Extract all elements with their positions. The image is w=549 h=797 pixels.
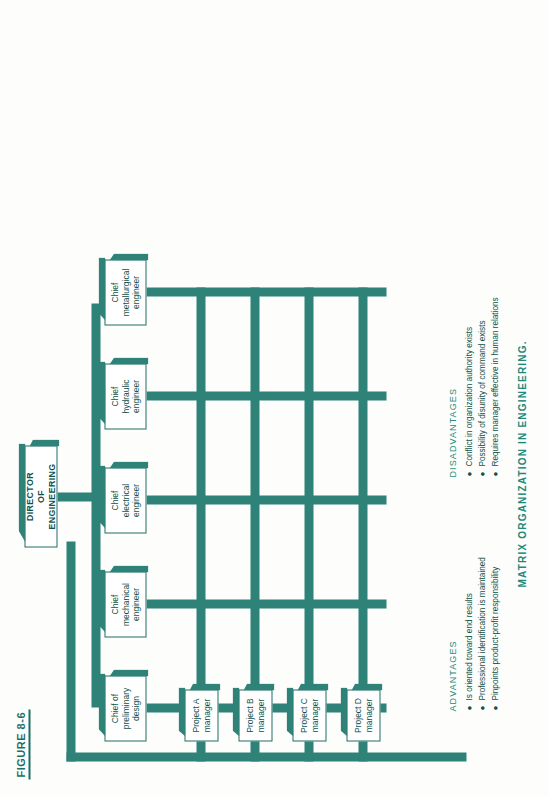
left-spine-vertical <box>66 752 466 761</box>
advantages-list: ● Is oriented toward end results ● Profe… <box>463 511 501 711</box>
chief-line-2: hydraulic <box>120 379 131 413</box>
bullet-icon: ● <box>476 705 488 710</box>
director-of-engineering-box[interactable]: DIRECTOR OF ENGINEERING <box>24 445 57 547</box>
box-shadow-right <box>109 565 148 572</box>
project-manager-box-a[interactable]: Project A manager <box>184 689 218 741</box>
list-item: ● Possibility of disunity of command exi… <box>476 247 488 466</box>
chief-line-1: Chief <box>109 268 120 316</box>
bullet-icon: ● <box>463 705 475 710</box>
box-shadow-top <box>178 687 185 736</box>
director-line-2: OF <box>35 463 46 529</box>
list-item: ● Professional identification is maintai… <box>476 511 488 700</box>
director-line-1: DIRECTOR <box>24 463 35 529</box>
matrix-row-4 <box>358 287 367 712</box>
disadvantages-item-text: Conflict in organization authority exist… <box>464 326 473 466</box>
matrix-column-5 <box>146 287 386 296</box>
chief-line-3: engineer <box>130 268 141 316</box>
project-line-1: Project D <box>352 698 363 733</box>
chief-line-3: engineer <box>130 379 141 413</box>
box-shadow-right <box>109 461 148 468</box>
chief-box-hydraulic-engineer[interactable]: Chief hydraulic engineer <box>104 363 146 429</box>
box-shadow-top <box>98 465 105 528</box>
box-shadow-top <box>98 569 105 632</box>
box-shadow-right <box>297 683 328 690</box>
disadvantages-heading: DISADVANTAGES <box>446 247 459 477</box>
box-shadow-right <box>351 683 382 690</box>
box-shadow-right <box>109 253 148 260</box>
chief-line-1: Chief <box>109 483 120 517</box>
box-shadow-right <box>109 669 148 676</box>
director-line-3: ENGINEERING <box>46 463 57 529</box>
project-line-2: manager <box>201 698 212 732</box>
box-shadow-right <box>189 683 220 690</box>
bullet-icon: ● <box>463 471 475 476</box>
chief-line-3: engineer <box>130 483 141 517</box>
project-manager-box-b[interactable]: Project B manager <box>238 689 272 741</box>
chief-box-mechanical-engineer[interactable]: Chief mechanical engineer <box>104 571 146 637</box>
box-shadow-top <box>286 687 293 736</box>
figure-canvas: FIGURE 8-6 DIRECTOR OF ENGINEERING Chief… <box>0 0 549 797</box>
project-line-1: Project A <box>190 698 201 732</box>
box-shadow-right <box>29 439 59 446</box>
advantages-item-text: Professional identification is maintaine… <box>477 557 486 700</box>
matrix-column-2 <box>146 599 386 608</box>
project-line-1: Project C <box>298 698 309 733</box>
disadvantages-item-text: Requires manager effective in human rela… <box>490 297 499 466</box>
box-shadow-top <box>232 687 239 736</box>
director-vertical-connector <box>57 492 95 501</box>
box-shadow-top <box>98 673 105 736</box>
chief-line-2: preliminary <box>120 687 131 729</box>
disadvantages-item-text: Possibility of disunity of command exist… <box>477 320 486 466</box>
disadvantages-block: DISADVANTAGES ● Conflict in organization… <box>446 247 502 477</box>
advantages-block: ADVANTAGES ● Is oriented toward end resu… <box>446 511 502 711</box>
project-manager-box-d[interactable]: Project D manager <box>346 689 380 741</box>
list-item: ● Pinpoints product-profit responsibilit… <box>489 511 501 700</box>
box-shadow-top <box>98 257 105 320</box>
chief-box-metallurgical-engineer[interactable]: Chief metallurgical engineer <box>104 259 146 325</box>
matrix-row-2 <box>250 287 259 712</box>
list-item: ● Conflict in organization authority exi… <box>463 247 475 466</box>
matrix-column-4 <box>146 391 386 400</box>
matrix-row-3 <box>304 287 313 712</box>
chief-line-2: metallurgical <box>120 268 131 316</box>
list-item: ● Requires manager effective in human re… <box>489 247 501 466</box>
bullet-icon: ● <box>476 471 488 476</box>
chief-line-2: electrical <box>120 483 131 517</box>
chief-line-1: Chief of <box>109 687 120 729</box>
project-line-2: manager <box>309 698 320 733</box>
bullet-icon: ● <box>489 705 501 710</box>
box-shadow-right <box>109 357 148 364</box>
chief-line-2: mechanical <box>120 583 131 626</box>
advantages-item-text: Is oriented toward end results <box>464 593 473 700</box>
chief-line-3: design <box>130 687 141 729</box>
chief-line-1: Chief <box>109 379 120 413</box>
chief-line-3: engineer <box>130 583 141 626</box>
advantages-heading: ADVANTAGES <box>446 511 459 711</box>
disadvantages-list: ● Conflict in organization authority exi… <box>463 247 501 477</box>
matrix-row-1 <box>196 287 205 712</box>
project-line-1: Project B <box>244 698 255 733</box>
box-shadow-right <box>243 683 274 690</box>
box-shadow-top <box>340 687 347 736</box>
director-to-left-spine <box>66 541 75 761</box>
figure-caption: MATRIX ORGANIZATION IN ENGINEERING. <box>516 340 527 587</box>
list-item: ● Is oriented toward end results <box>463 511 475 700</box>
advantages-item-text: Pinpoints product-profit responsibility <box>490 566 499 700</box>
chief-box-preliminary-design[interactable]: Chief of preliminary design <box>104 675 146 741</box>
chief-box-electrical-engineer[interactable]: Chief electrical engineer <box>104 467 146 533</box>
box-shadow-top <box>98 361 105 424</box>
project-manager-box-c[interactable]: Project C manager <box>292 689 326 741</box>
matrix-column-3 <box>146 495 386 504</box>
figure-label: FIGURE 8-6 <box>14 709 30 779</box>
bullet-icon: ● <box>489 471 501 476</box>
chief-line-1: Chief <box>109 583 120 626</box>
project-line-2: manager <box>363 698 374 733</box>
project-line-2: manager <box>255 698 266 733</box>
